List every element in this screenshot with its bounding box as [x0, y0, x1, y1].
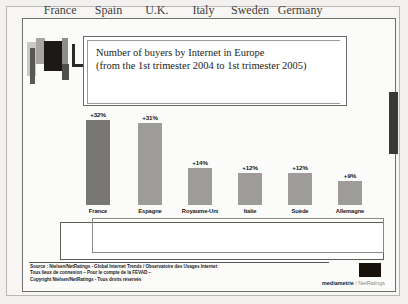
mediametrie-logo-mark — [359, 263, 381, 277]
mediametrie-logo-text: mediametrie / NetRatings — [322, 280, 385, 286]
decor-block-gray — [62, 38, 68, 64]
logo-brand-name: mediametrie — [322, 280, 354, 286]
source-line-3: Copyright Nielsen/NetRatings - Tous droi… — [30, 277, 217, 283]
bar-rect — [288, 173, 312, 205]
title-line-1: Number of buyers by Internet in Europe — [96, 46, 336, 59]
decor-block-tall — [30, 48, 35, 84]
title-line-2: (from the 1st trimester 2004 to 1st trim… — [96, 59, 336, 72]
decor-block-black — [44, 41, 62, 71]
bar-category-label: Italie — [244, 208, 257, 214]
english-box-inner-border — [92, 218, 384, 253]
bar-chart: +32%France+31%Espagne+14%Royaume-Uni+12%… — [83, 112, 373, 220]
bar-category-label: Allemagne — [336, 208, 364, 214]
english-translation-box — [60, 222, 384, 260]
bar-value-label: +12% — [292, 164, 308, 171]
bar-value-label: +31% — [142, 114, 158, 121]
footer-divider — [29, 262, 329, 263]
bar-rect — [86, 120, 110, 205]
decor-block-right-edge — [389, 92, 398, 154]
bar-rect — [138, 123, 162, 205]
source-note: Source : Nielsen/NetRatings - Global Int… — [30, 264, 217, 283]
logo-sub-name: / NetRatings — [355, 280, 385, 286]
page-title: Number of buyers by Internet in Europe (… — [96, 46, 336, 72]
bar-rect — [238, 173, 262, 205]
bar-value-label: +14% — [192, 159, 208, 166]
bar-value-label: +12% — [242, 164, 258, 171]
footer: Source : Nielsen/NetRatings - Global Int… — [29, 262, 387, 290]
bar-category-label: Espagne — [138, 208, 161, 214]
english-label-sweden: Sweden — [226, 3, 274, 18]
english-label-france: France — [36, 3, 84, 18]
bar-value-label: +32% — [90, 111, 106, 118]
scanned-slide: Number of buyers by Internet in Europe (… — [0, 0, 408, 304]
bar-category-label: France — [89, 208, 107, 214]
english-label-germany: Germany — [274, 3, 326, 18]
title-box: Number of buyers by Internet in Europe (… — [83, 36, 347, 106]
bar-category-label: Royaume-Uni — [182, 208, 218, 214]
bar-category-label: Suède — [292, 208, 309, 214]
english-label-row: France Spain U.K. Italy Sweden Germany — [36, 3, 326, 18]
bar-rect — [338, 181, 362, 205]
english-label-spain: Spain — [84, 3, 132, 18]
bar-rect — [188, 168, 212, 205]
english-label-italy: Italy — [181, 3, 226, 18]
bar-value-label: +9% — [344, 172, 356, 179]
decor-block-gray-lower — [62, 64, 69, 80]
english-label-uk: U.K. — [133, 3, 181, 18]
